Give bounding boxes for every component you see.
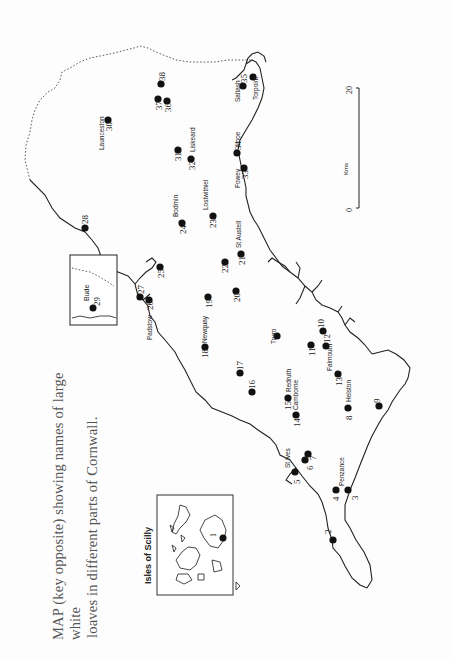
label-lostwithiel: Lostwithiel	[202, 179, 209, 210]
svg-text:10: 10	[316, 319, 326, 329]
svg-text:16: 16	[247, 380, 257, 390]
label-penzance: Penzance	[338, 457, 345, 486]
svg-text:38: 38	[157, 72, 167, 82]
place-marker-1	[220, 535, 227, 542]
place-marker-14	[292, 411, 299, 418]
svg-text:26: 26	[145, 301, 155, 311]
label-padstow: Padstow	[146, 315, 153, 340]
svg-text:11: 11	[307, 347, 317, 356]
label-st-austell: St Austell	[235, 220, 242, 248]
svg-text:17: 17	[235, 361, 245, 371]
label-newquay: Newquay	[201, 315, 209, 343]
place-marker-23	[209, 212, 216, 219]
scilly-inset-title: Isles of Scilly	[143, 527, 153, 584]
svg-text:37: 37	[154, 101, 164, 111]
place-marker-13	[334, 370, 341, 377]
label-launceston: Launceston	[98, 116, 105, 150]
svg-text:6: 6	[305, 465, 315, 470]
scale-bar: 0 20 Kms	[343, 86, 359, 212]
svg-text:27: 27	[136, 285, 146, 295]
svg-text:30: 30	[104, 122, 114, 132]
place-numbers: 2 3 4 5 6 7 8 9 10 11 12 13 14 15 16 17 …	[80, 72, 382, 535]
svg-text:7: 7	[308, 455, 318, 460]
label-redruth: Redruth	[285, 368, 292, 392]
svg-text:14: 14	[292, 418, 302, 428]
bude-inset: Bude 29	[70, 255, 117, 325]
caption-line-1: MAP (key opposite) showing names of larg…	[50, 370, 84, 640]
label-looe: Looe	[234, 131, 241, 146]
svg-text:19: 19	[204, 299, 214, 309]
label-bodmin: Bodmin	[172, 195, 179, 217]
svg-text:33: 33	[240, 170, 250, 180]
place-marker-3	[344, 486, 351, 493]
caption-line-2: loaves in different parts of Cornwall.	[84, 370, 101, 640]
label-falmouth: Falmouth	[326, 344, 333, 371]
label-truro: Truro	[270, 328, 277, 344]
scale-unit: Kms	[343, 163, 349, 175]
place-number-1: 1	[209, 533, 218, 537]
svg-text:23: 23	[208, 219, 218, 229]
place-marker-15	[284, 394, 291, 401]
svg-text:5: 5	[292, 479, 302, 484]
label-helston: Helston	[345, 380, 352, 402]
svg-text:22: 22	[220, 264, 230, 273]
place-marker-28	[81, 224, 88, 231]
place-number-29: 29	[92, 297, 102, 307]
svg-text:20: 20	[232, 293, 242, 303]
map-caption: MAP (key opposite) showing names of larg…	[50, 370, 101, 640]
book-page: Bude 29 Isles of Scilly 1	[0, 0, 450, 659]
svg-text:28: 28	[80, 215, 90, 225]
svg-text:2: 2	[323, 530, 333, 535]
county-border	[25, 46, 252, 180]
svg-text:12: 12	[322, 334, 332, 343]
label-camborne: Camborne	[292, 379, 299, 410]
svg-text:21: 21	[237, 256, 247, 265]
svg-text:31: 31	[173, 152, 183, 161]
place-marker-2	[329, 536, 336, 543]
label-liskeard: Liskeard	[189, 127, 196, 152]
label-fowey: Fowey	[234, 168, 242, 188]
svg-text:8: 8	[344, 415, 354, 420]
svg-text:4: 4	[331, 496, 341, 501]
svg-text:9: 9	[372, 398, 382, 403]
town-labels: Penzance St Ives Helston Falmouth Cambor…	[98, 77, 352, 486]
scale-end: 20	[345, 86, 354, 94]
svg-text:32: 32	[187, 161, 197, 170]
scilly-inset: Isles of Scilly 1	[143, 495, 240, 595]
svg-text:36: 36	[163, 103, 173, 113]
svg-text:18: 18	[200, 349, 210, 359]
place-marker-4	[332, 486, 339, 493]
svg-text:3: 3	[350, 495, 360, 500]
place-marker-8	[344, 404, 351, 411]
svg-text:24: 24	[178, 225, 188, 235]
scale-start: 0	[345, 208, 354, 212]
svg-text:13: 13	[334, 377, 344, 387]
label-torpoint: Torpoint	[252, 77, 260, 100]
place-marker-5	[291, 468, 298, 475]
svg-text:25: 25	[156, 269, 166, 279]
label-st-ives: St Ives	[284, 447, 291, 468]
label-saltash: Saltash	[234, 80, 241, 102]
place-label-bude: Bude	[83, 285, 90, 301]
